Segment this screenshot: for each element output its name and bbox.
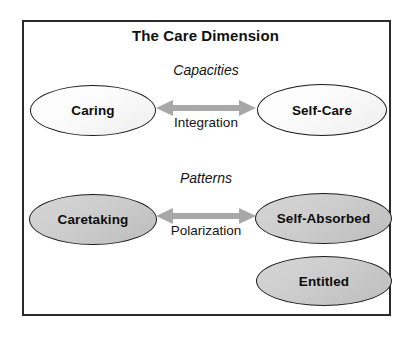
node-caring-label: Caring [71, 103, 114, 118]
node-self-absorbed-label: Self-Absorbed [277, 211, 371, 226]
diagram-canvas: The Care Dimension Capacities Caring Int… [0, 0, 411, 342]
page-title: The Care Dimension [0, 27, 411, 44]
relation-label-integration: Integration [141, 115, 271, 130]
node-self-absorbed[interactable]: Self-Absorbed [255, 193, 392, 244]
node-caring[interactable]: Caring [30, 85, 156, 136]
node-self-care-label: Self-Care [292, 103, 352, 118]
node-caretaking[interactable]: Caretaking [29, 194, 157, 245]
node-entitled-label: Entitled [299, 274, 349, 289]
band-label-patterns: Patterns [146, 170, 266, 186]
node-caretaking-label: Caretaking [58, 212, 129, 227]
band-label-capacities: Capacities [146, 62, 266, 78]
node-self-care[interactable]: Self-Care [257, 84, 387, 136]
relation-label-polarization: Polarization [141, 223, 271, 238]
node-entitled[interactable]: Entitled [256, 256, 392, 306]
